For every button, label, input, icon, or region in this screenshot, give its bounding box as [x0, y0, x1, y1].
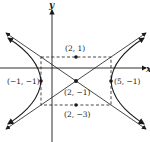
co-vertex-top-point [74, 55, 78, 59]
co-vertex-top-label: (2, 1) [65, 44, 85, 53]
x-axis-label: x [145, 64, 150, 74]
vertex-right-label: (5, −1) [114, 77, 141, 86]
co-vertex-bottom-label: (2, −3) [64, 110, 91, 119]
hyperbola-diagram: y x (2, 1) (2, −1) (2, −3) (−1, −1) (5, … [0, 0, 150, 142]
right-branch-top-arrow [111, 38, 144, 81]
asymptote-positive-slope [76, 33, 146, 81]
vertex-right-point [109, 79, 113, 83]
y-axis-label: y [48, 0, 55, 10]
center-label: (2, −1) [64, 88, 91, 97]
co-vertex-bottom-point [74, 103, 78, 107]
coordinate-axes [0, 10, 146, 142]
left-branch-top-arrow [8, 38, 41, 81]
vertex-left-point [39, 79, 43, 83]
center-point [74, 79, 78, 83]
vertex-left-label: (−1, −1) [7, 77, 40, 86]
